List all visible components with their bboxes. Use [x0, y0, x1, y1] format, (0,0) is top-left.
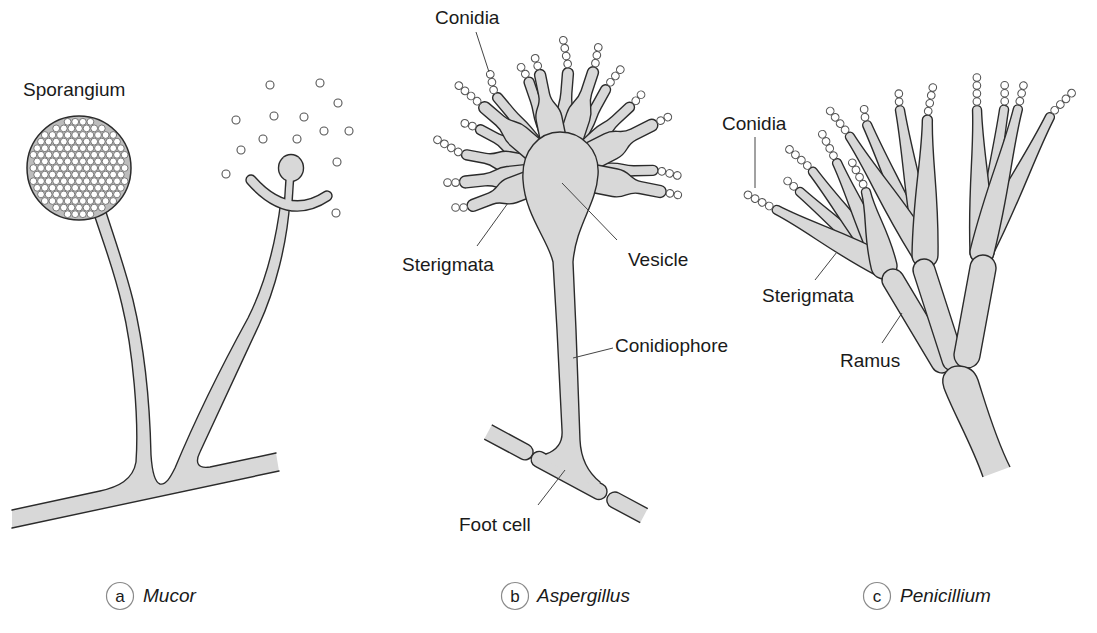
conidia-chain	[486, 70, 498, 95]
conidia-chain	[559, 36, 572, 68]
conidia-chain	[860, 105, 869, 121]
ramus	[952, 253, 998, 370]
conidia-chain	[454, 80, 483, 106]
conidia-chain	[1001, 81, 1009, 105]
conidia-chain	[657, 167, 682, 180]
caption-letter: a	[115, 587, 125, 606]
conidia-chain	[743, 190, 775, 211]
caption-letter: b	[510, 587, 519, 606]
caption-aspergillus: b Aspergillus	[502, 583, 631, 610]
conidia-chain	[782, 176, 799, 192]
conidia-chain	[817, 129, 838, 161]
vesicle-and-conidiophore	[523, 132, 600, 488]
label-ramus: Ramus	[840, 350, 900, 371]
caption-name: Mucor	[143, 585, 196, 606]
penicillium-panel: Conidia Sterigmata Ramus c Penicillium	[722, 73, 1078, 609]
fungal-structures-figure: Sporangium a Mucor	[0, 0, 1097, 633]
conidia-chain	[516, 62, 531, 79]
conidia-chain	[924, 83, 937, 115]
conidia-chain	[591, 43, 603, 68]
caption-penicillium: c Penicillium	[864, 583, 991, 610]
leader-sterigmata	[815, 252, 837, 280]
conidia-chain	[1049, 88, 1077, 116]
conidia-chain	[784, 144, 813, 171]
caption-mucor: a Mucor	[107, 583, 197, 610]
mucor-panel: Sporangium a Mucor	[12, 79, 353, 610]
leader-conidiophore	[573, 348, 613, 358]
conidia-chain	[656, 112, 673, 126]
aspergillus-panel: Conidia Sterigmata Vesicle Conidiophore …	[402, 7, 728, 610]
label-vesicle: Vesicle	[628, 249, 688, 270]
conidia-chain	[452, 204, 468, 212]
conidia-chain	[460, 118, 477, 130]
caption-letter: c	[873, 587, 882, 606]
columella	[251, 154, 327, 206]
conidia-chain	[605, 64, 626, 87]
label-sterigmata: Sterigmata	[762, 285, 854, 306]
label-conidiophore: Conidiophore	[615, 335, 728, 356]
conidia-chain	[665, 189, 682, 199]
label-sporangium: Sporangium	[23, 79, 125, 100]
leader-sterigmata	[477, 203, 508, 246]
conidia-chain	[530, 53, 542, 70]
label-sterigmata: Sterigmata	[402, 254, 494, 275]
conidia-chain	[973, 74, 981, 106]
leader-conidia	[476, 32, 489, 72]
leader-ramus	[882, 313, 902, 343]
conidia-chain	[825, 106, 851, 135]
sporangium	[27, 116, 131, 220]
label-foot-cell: Foot cell	[459, 514, 531, 535]
label-conidia: Conidia	[722, 113, 787, 134]
conidia-chain	[432, 135, 463, 158]
caption-name: Penicillium	[900, 585, 991, 606]
conidia-chain	[630, 89, 646, 106]
caption-name: Aspergillus	[536, 585, 630, 606]
conidia-chain	[1015, 81, 1028, 106]
mucor-hyphae	[12, 200, 290, 528]
conidia-chain	[444, 179, 460, 187]
penicillium-stipe	[943, 366, 1010, 477]
conidia-chain	[895, 90, 903, 106]
penicillium-right-cluster	[964, 73, 1078, 268]
label-conidia: Conidia	[435, 7, 500, 28]
